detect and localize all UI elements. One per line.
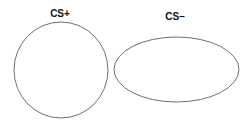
cs-plus-label: CS+ [50, 8, 70, 19]
diagram-canvas: CS+ CS– [0, 0, 252, 121]
cs-plus-circle [14, 22, 108, 118]
cs-minus-ellipse [114, 37, 239, 102]
diagram-svg: CS+ CS– [0, 0, 252, 121]
cs-minus-label: CS– [165, 11, 185, 22]
